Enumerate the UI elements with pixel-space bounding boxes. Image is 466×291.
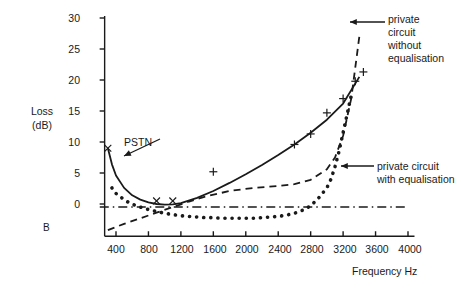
chart-figure: Loss (dB) 30 25 20 15 10 5 0 400 800 120…: [0, 0, 466, 291]
annotation-without-eq-line2: circuit: [388, 26, 415, 38]
y-axis-title-line2: (dB): [14, 119, 70, 131]
x-tick-label-3600: 3600: [359, 243, 395, 255]
annotation-without-eq-line4: equalisation: [388, 52, 444, 64]
y-tick-label-20: 20: [52, 74, 80, 86]
annotation-pstn: PSTN: [124, 136, 152, 148]
x-tick-label-2000: 2000: [229, 243, 265, 255]
figure-corner-label: B: [43, 222, 50, 234]
x-tick-label-1600: 1600: [197, 243, 233, 255]
y-tick-label-0: 0: [52, 198, 80, 210]
marker-x-1100: [169, 198, 176, 205]
y-tick-label-5: 5: [52, 167, 80, 179]
x-tick-label-3200: 3200: [327, 243, 363, 255]
leader-arrow-with-equalisation: [341, 163, 374, 169]
annotation-with-eq-line1: private circuit: [377, 160, 439, 172]
x-tick-label-4000: 4000: [392, 243, 428, 255]
leader-arrow-without-equalisation: [350, 19, 385, 25]
y-tick-label-25: 25: [52, 43, 80, 55]
x-tick-label-2800: 2800: [294, 243, 330, 255]
y-tick-label-15: 15: [52, 105, 80, 117]
x-tick-label-1200: 1200: [164, 243, 200, 255]
annotation-without-eq-line1: private: [388, 13, 420, 25]
y-tick-label-30: 30: [52, 12, 80, 24]
x-axis-title: Frequency Hz: [352, 265, 417, 277]
y-tick-label-10: 10: [52, 136, 80, 148]
x-tick-label-2400: 2400: [262, 243, 298, 255]
x-tick-label-800: 800: [133, 243, 165, 255]
annotation-with-eq-line2: with equalisation: [377, 173, 455, 185]
annotation-without-eq-line3: without: [388, 39, 421, 51]
marker-+-3200: [339, 95, 347, 103]
series-private-circuit-with-equalisation: [112, 96, 351, 219]
x-tick-label-400: 400: [100, 243, 132, 255]
marker-+-3450: [359, 68, 367, 76]
marker-+-1600: [209, 168, 217, 176]
